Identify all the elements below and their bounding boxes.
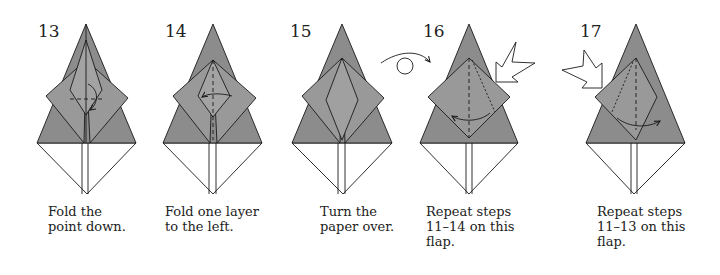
step-16-diagram [381,24,535,194]
step-16-number: 16 [423,21,445,41]
step-15-diagram [292,24,392,194]
step-14-number: 14 [165,21,187,41]
repeat-arrow-icon [562,50,602,88]
step-13-diagram [37,24,136,194]
step-17-diagram [562,24,685,194]
step-15-caption: Turn the paper over. [320,204,394,234]
repeat-arrow-icon [496,42,535,82]
step-13-caption: Fold the point down. [48,204,126,234]
step-14-diagram [163,24,262,194]
step-17-caption: Repeat steps 11–13 on this flap. [597,204,685,249]
step-14-caption: Fold one layer to the left. [165,204,259,234]
step-13-number: 13 [38,21,60,41]
step-15-number: 15 [290,21,312,41]
step-16-caption: Repeat steps 11–14 on this flap. [426,204,514,249]
step-17-number: 17 [580,21,602,41]
